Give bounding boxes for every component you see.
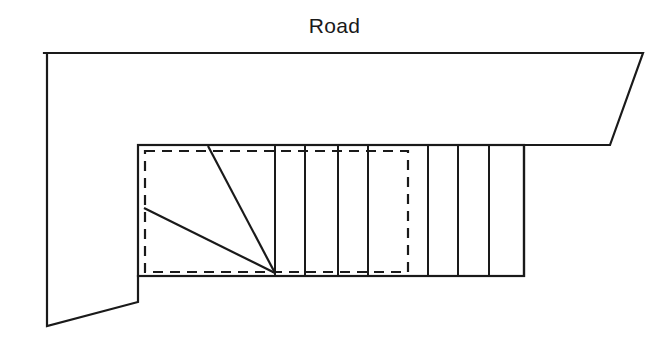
building-outline — [138, 145, 524, 276]
site-plan-diagram: Road — [0, 0, 669, 349]
diagonal-upper — [208, 146, 275, 273]
plan-drawing — [0, 0, 669, 349]
site-boundary — [44, 53, 643, 326]
site-boundary — [44, 53, 643, 326]
diagonals-group — [144, 146, 275, 273]
building-outline — [138, 145, 524, 276]
grid-lines-group — [275, 145, 489, 276]
diagonal-lower — [144, 208, 275, 273]
